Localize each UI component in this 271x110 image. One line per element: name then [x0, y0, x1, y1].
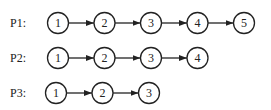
node-circle: 4 — [187, 48, 208, 69]
node-circle: 3 — [141, 13, 162, 34]
node-circle: 2 — [94, 48, 115, 69]
node-circle: 5 — [234, 13, 255, 34]
node-label: 2 — [102, 51, 108, 65]
node-label: 1 — [55, 16, 61, 30]
node-circle: 4 — [187, 13, 208, 34]
node-label: 4 — [195, 51, 201, 65]
node-label: 5 — [241, 16, 247, 30]
row-label: P2: — [10, 51, 26, 65]
chain-row-p2: P2:1234 — [10, 48, 208, 69]
node-circle: 1 — [46, 83, 67, 104]
chain-row-p3: P3:123 — [10, 83, 160, 104]
node-label: 3 — [148, 51, 154, 65]
node-label: 3 — [146, 86, 152, 100]
node-label: 2 — [102, 16, 108, 30]
node-circle: 2 — [94, 13, 115, 34]
node-label: 4 — [195, 16, 201, 30]
node-label: 1 — [53, 86, 59, 100]
row-label: P3: — [10, 86, 26, 100]
node-label: 1 — [55, 51, 61, 65]
row-label: P1: — [10, 16, 26, 30]
node-circle: 1 — [48, 13, 69, 34]
node-label: 2 — [100, 86, 106, 100]
node-circle: 3 — [139, 83, 160, 104]
node-circle: 3 — [141, 48, 162, 69]
node-circle: 1 — [48, 48, 69, 69]
node-label: 3 — [148, 16, 154, 30]
chain-row-p1: P1:12345 — [10, 13, 255, 34]
chain-diagram: P1:12345P2:1234P3:123 — [0, 0, 271, 110]
node-circle: 2 — [92, 83, 113, 104]
